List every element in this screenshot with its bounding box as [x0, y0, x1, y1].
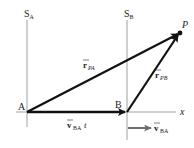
vector-rpb-label: r PB: [155, 70, 168, 81]
velocity-vba-label: v BA: [154, 123, 169, 134]
svg-text:r: r: [83, 60, 87, 70]
relative-motion-diagram: SA SB A B P x r PA r PB v BA t v BA: [0, 0, 194, 148]
svg-text:r: r: [155, 70, 159, 80]
frame-sa-label: SA: [24, 8, 35, 20]
vector-rpa-label: r PA: [83, 60, 95, 71]
svg-text:t: t: [84, 120, 87, 130]
svg-text:BA: BA: [73, 125, 82, 131]
point-p-dot: [178, 31, 183, 36]
frame-sb-label: SB: [124, 8, 134, 20]
vector-vba-t-label: v BA t: [67, 120, 87, 131]
svg-text:v: v: [67, 120, 72, 130]
point-b-label: B: [115, 99, 122, 110]
svg-text:BA: BA: [160, 128, 169, 134]
svg-text:PA: PA: [87, 65, 95, 71]
point-p-label: P: [181, 19, 188, 30]
point-a-label: A: [18, 101, 26, 112]
x-axis-label: x: [179, 106, 185, 117]
svg-text:PB: PB: [159, 75, 168, 81]
svg-text:v: v: [154, 123, 159, 133]
